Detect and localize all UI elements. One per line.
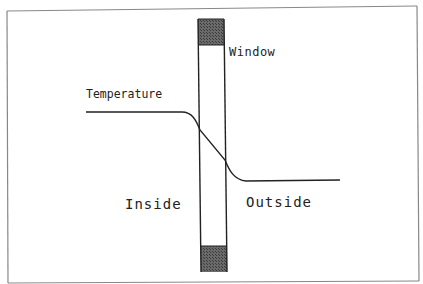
inside-label: Inside xyxy=(125,196,182,212)
outside-label: Outside xyxy=(246,194,312,210)
temperature-label: Temperature xyxy=(86,87,162,101)
temperature-curve xyxy=(86,112,340,181)
window-frame-top xyxy=(198,19,224,45)
window-frame-bottom xyxy=(201,246,227,272)
window-right-edge xyxy=(224,19,227,272)
window-label: Window xyxy=(229,45,275,59)
outer-border xyxy=(7,6,419,283)
diagram-svg xyxy=(0,0,423,284)
window-left-edge xyxy=(198,19,201,272)
diagram-canvas: Window Temperature Inside Outside xyxy=(0,0,423,284)
